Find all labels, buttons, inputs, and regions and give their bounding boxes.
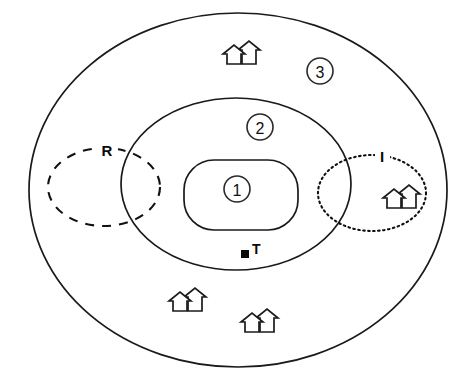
overlay-r-label-group: R: [96, 141, 118, 159]
marker-t-label: T: [252, 241, 261, 257]
zone-1-badge[interactable]: 1: [224, 176, 250, 202]
houses-icon: [223, 41, 260, 64]
zone-2-badge-label: 2: [256, 120, 265, 137]
settlement-top[interactable]: [223, 41, 260, 64]
houses-icon: [383, 185, 420, 208]
square-point-icon: [241, 250, 249, 258]
houses-icon: [169, 288, 206, 311]
zone-2-badge[interactable]: 2: [247, 114, 273, 140]
overlay-r-label: R: [102, 142, 113, 159]
houses-icon: [241, 309, 278, 332]
overlay-i-label-group: I: [375, 147, 390, 165]
settlement-right-inside-i[interactable]: [383, 185, 420, 208]
zone-3-badge[interactable]: 3: [307, 58, 333, 84]
overlay-i-label: I: [380, 148, 384, 165]
zone-diagram-container: R I 1 2 3 T: [0, 0, 468, 389]
settlement-bottom-right[interactable]: [241, 309, 278, 332]
zone-1-badge-label: 1: [233, 182, 242, 199]
zone-3-badge-label: 3: [316, 64, 325, 81]
overlay-r-boundary[interactable]: [48, 148, 160, 226]
marker-t-group[interactable]: T: [241, 241, 261, 258]
settlement-bottom-left[interactable]: [169, 288, 206, 311]
zone-diagram-canvas: R I 1 2 3 T: [0, 0, 468, 389]
